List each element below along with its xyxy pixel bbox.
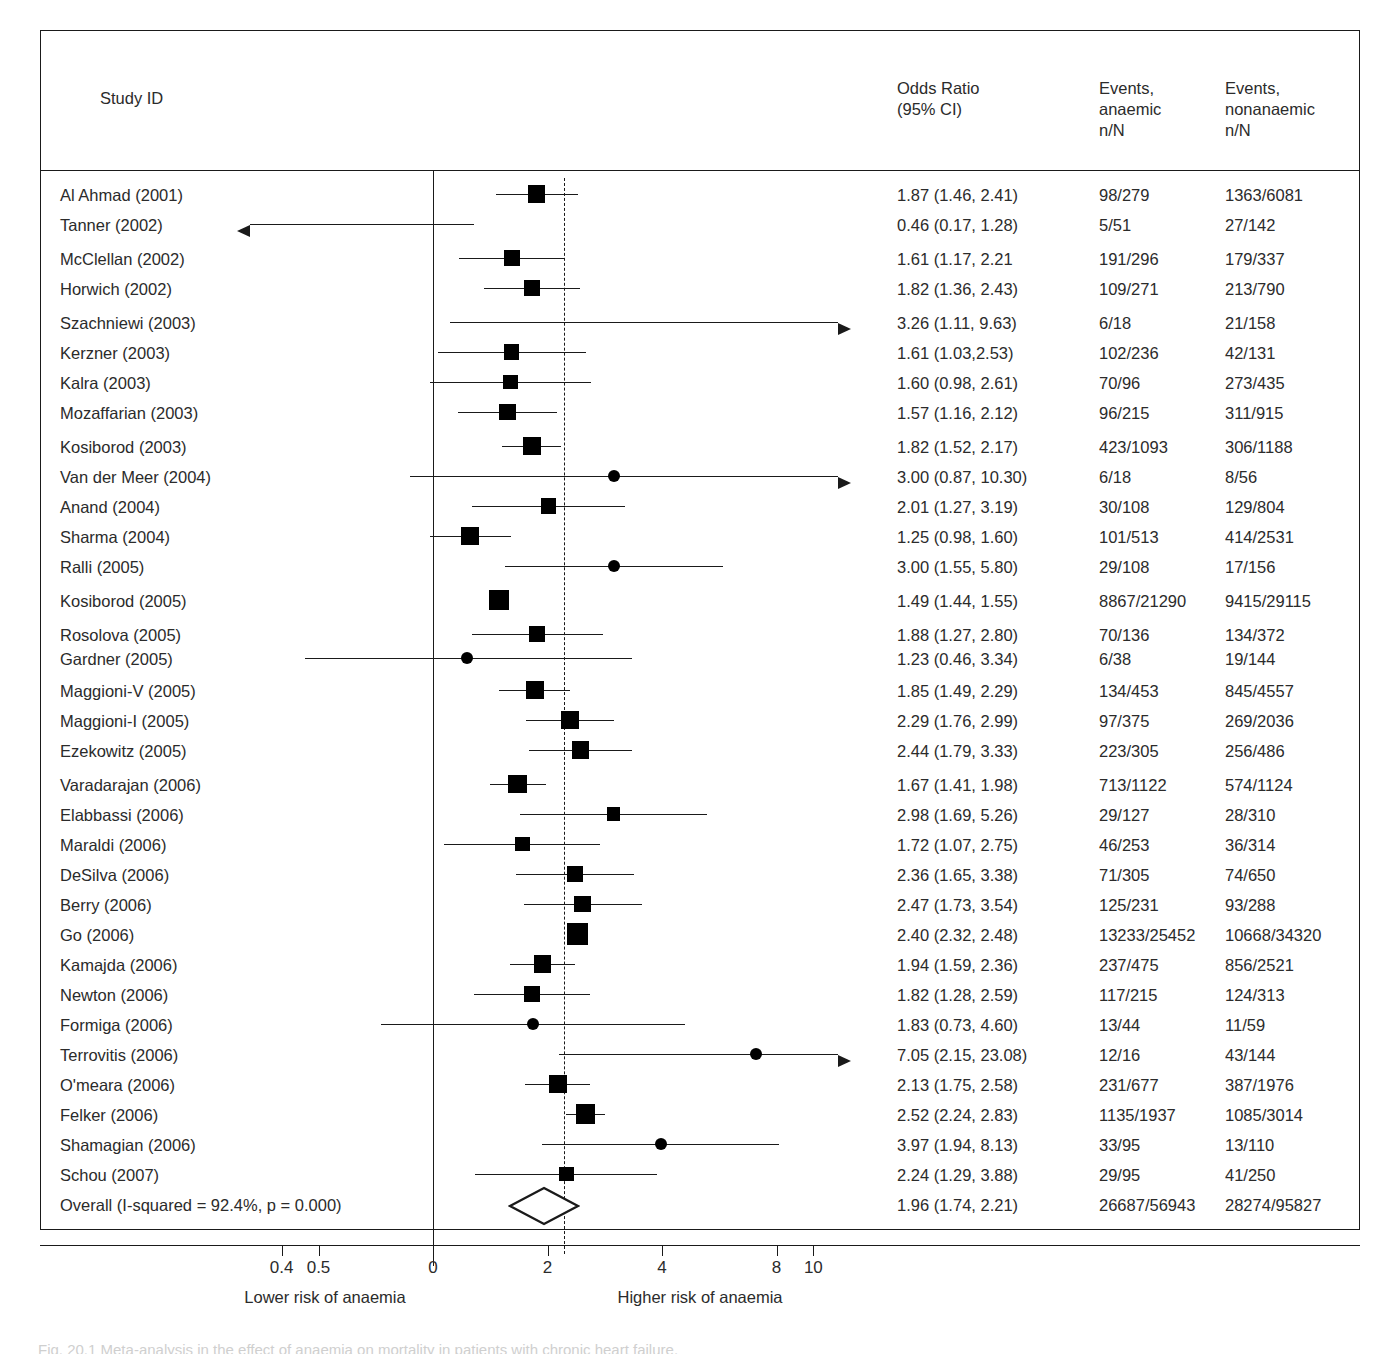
column-header-events-nonanaemic: Events, nonanaemic n/N (1225, 78, 1315, 141)
axis-tick (319, 1245, 320, 1256)
forest-row: Anand (2004)2.01 (1.27, 3.19)30/108129/8… (40, 494, 1360, 520)
study-id-label: Berry (2006) (60, 892, 152, 918)
events-anaemic-value: 29/108 (1099, 554, 1149, 580)
axis-tick (662, 1245, 663, 1256)
study-id-label: Kerzner (2003) (60, 340, 170, 366)
events-anaemic-value: 29/127 (1099, 802, 1149, 828)
forest-row: Maggioni-I (2005)2.29 (1.76, 2.99)97/375… (40, 708, 1360, 734)
study-id-label: Horwich (2002) (60, 276, 172, 302)
events-nonanaemic-value: 19/144 (1225, 646, 1275, 672)
study-marker-square (567, 923, 588, 944)
study-marker-square (461, 527, 479, 545)
study-id-label: Kalra (2003) (60, 370, 151, 396)
events-nonanaemic-value: 129/804 (1225, 494, 1285, 520)
events-nonanaemic-value: 9415/29115 (1225, 588, 1311, 614)
events-anaemic-value: 223/305 (1099, 738, 1159, 764)
events-nonanaemic-value: 41/250 (1225, 1162, 1275, 1188)
events-anaemic-value: 30/108 (1099, 494, 1149, 520)
study-id-label: Sharma (2004) (60, 524, 170, 550)
forest-plot-figure: Study ID Odds Ratio (95% CI) Events, ana… (0, 0, 1398, 1354)
study-id-label: O'meara (2006) (60, 1072, 175, 1098)
study-id-label: Formiga (2006) (60, 1012, 173, 1038)
events-nonanaemic-value: 256/486 (1225, 738, 1285, 764)
study-id-label: Overall (I-squared = 92.4%, p = 0.000) (60, 1192, 342, 1218)
forest-row: Sharma (2004)1.25 (0.98, 1.60)101/513414… (40, 524, 1360, 550)
ci-arrow-left-icon (237, 225, 250, 237)
study-id-label: Tanner (2002) (60, 212, 163, 238)
forest-row: O'meara (2006)2.13 (1.75, 2.58)231/67738… (40, 1072, 1360, 1098)
forest-row: Kosiborod (2003)1.82 (1.52, 2.17)423/109… (40, 434, 1360, 460)
forest-row: Varadarajan (2006)1.67 (1.41, 1.98)713/1… (40, 772, 1360, 798)
study-marker-square (524, 986, 540, 1002)
events-nonanaemic-value: 134/372 (1225, 622, 1285, 648)
events-anaemic-value: 423/1093 (1099, 434, 1168, 460)
study-marker-square (524, 280, 541, 297)
events-anaemic-value: 29/95 (1099, 1162, 1140, 1188)
events-anaemic-value: 713/1122 (1099, 772, 1167, 798)
study-id-label: Schou (2007) (60, 1162, 159, 1188)
axis-label-lower-risk: Lower risk of anaemia (244, 1288, 405, 1307)
study-marker-square (534, 955, 552, 973)
forest-row: Tanner (2002)0.46 (0.17, 1.28)5/5127/142 (40, 212, 1360, 238)
odds-ratio-value: 2.52 (2.24, 2.83) (897, 1102, 1018, 1128)
study-id-label: Felker (2006) (60, 1102, 158, 1128)
study-id-label: Newton (2006) (60, 982, 168, 1008)
events-nonanaemic-value: 17/156 (1225, 554, 1275, 580)
events-nonanaemic-value: 1363/6081 (1225, 182, 1303, 208)
column-header-study-id: Study ID (100, 88, 163, 109)
odds-ratio-value: 2.13 (1.75, 2.58) (897, 1072, 1018, 1098)
events-nonanaemic-value: 13/110 (1225, 1132, 1274, 1158)
events-nonanaemic-value: 414/2531 (1225, 524, 1294, 550)
forest-row: Formiga (2006)1.83 (0.73, 4.60)13/4411/5… (40, 1012, 1360, 1038)
study-marker-square (541, 498, 556, 513)
forest-row-overall: Overall (I-squared = 92.4%, p = 0.000)1.… (40, 1192, 1360, 1218)
study-marker-square (503, 375, 518, 390)
events-nonanaemic-value: 10668/34320 (1225, 922, 1321, 948)
study-id-label: DeSilva (2006) (60, 862, 169, 888)
events-nonanaemic-value: 11/59 (1225, 1012, 1265, 1038)
column-header-odds-ratio: Odds Ratio (95% CI) (897, 78, 980, 120)
odds-ratio-value: 1.82 (1.52, 2.17) (897, 434, 1018, 460)
axis-tick-label: 10 (804, 1258, 823, 1278)
events-nonanaemic-value: 273/435 (1225, 370, 1285, 396)
x-axis-line (40, 1245, 1360, 1246)
forest-row: Go (2006)2.40 (2.32, 2.48)13233/25452106… (40, 922, 1360, 948)
forest-row: Kerzner (2003)1.61 (1.03,2.53)102/23642/… (40, 340, 1360, 366)
column-header-events-anaemic: Events, anaemic n/N (1099, 78, 1161, 141)
forest-row: Rosolova (2005)1.88 (1.27, 2.80)70/13613… (40, 622, 1360, 648)
study-marker-square (549, 1075, 567, 1093)
events-nonanaemic-value: 213/790 (1225, 276, 1285, 302)
events-nonanaemic-value: 387/1976 (1225, 1072, 1294, 1098)
events-anaemic-value: 13233/25452 (1099, 922, 1195, 948)
study-id-label: Van der Meer (2004) (60, 464, 211, 490)
study-id-label: Shamagian (2006) (60, 1132, 196, 1158)
forest-row: DeSilva (2006)2.36 (1.65, 3.38)71/30574/… (40, 862, 1360, 888)
events-nonanaemic-value: 124/313 (1225, 982, 1285, 1008)
study-marker-square (574, 896, 591, 913)
odds-ratio-value: 1.82 (1.28, 2.59) (897, 982, 1018, 1008)
events-anaemic-value: 1135/1937 (1099, 1102, 1176, 1128)
events-anaemic-value: 70/136 (1099, 622, 1149, 648)
events-anaemic-value: 117/215 (1099, 982, 1157, 1008)
study-marker-square (576, 1104, 595, 1123)
study-marker-square (523, 437, 541, 455)
odds-ratio-value: 2.36 (1.65, 3.38) (897, 862, 1018, 888)
ci-arrow-right-icon (838, 477, 851, 489)
events-anaemic-value: 46/253 (1099, 832, 1149, 858)
odds-ratio-value: 2.40 (2.32, 2.48) (897, 922, 1018, 948)
study-id-label: Kamajda (2006) (60, 952, 177, 978)
study-marker-circle (527, 1018, 539, 1030)
forest-row: Al Ahmad (2001)1.87 (1.46, 2.41)98/27913… (40, 182, 1360, 208)
ci-arrow-right-icon (838, 1055, 851, 1067)
study-id-label: Terrovitis (2006) (60, 1042, 178, 1068)
axis-label-higher-risk: Higher risk of anaemia (617, 1288, 782, 1307)
study-id-label: Al Ahmad (2001) (60, 182, 183, 208)
events-anaemic-value: 101/513 (1099, 524, 1159, 550)
axis-tick-label: 4 (657, 1258, 666, 1278)
study-id-label: Maggioni-I (2005) (60, 708, 189, 734)
odds-ratio-value: 1.49 (1.44, 1.55) (897, 588, 1018, 614)
forest-row: Terrovitis (2006)7.05 (2.15, 23.08)12/16… (40, 1042, 1360, 1068)
events-anaemic-value: 6/18 (1099, 310, 1131, 336)
study-marker-square (504, 250, 520, 266)
odds-ratio-value: 3.26 (1.11, 9.63) (897, 310, 1017, 336)
